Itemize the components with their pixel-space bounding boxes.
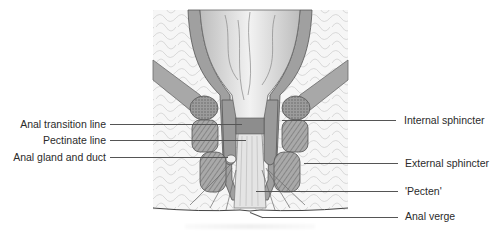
label-anal-gland-and-duct: Anal gland and duct xyxy=(13,151,106,163)
external-sphincter-superficial-right xyxy=(282,120,308,152)
leader-external-sphincter xyxy=(304,163,398,164)
leader-anal-verge xyxy=(262,217,398,218)
leader-anal-transition-line xyxy=(110,124,242,125)
leader-internal-sphincter xyxy=(282,120,396,121)
leader-pectinate-line xyxy=(110,140,246,141)
external-sphincter-deep-right xyxy=(282,96,310,120)
anatomy-figure: Anal transition line Pectinate line Anal… xyxy=(0,0,497,232)
label-pectinate-line: Pectinate line xyxy=(43,134,106,146)
label-anal-transition-line: Anal transition line xyxy=(20,118,106,130)
external-sphincter-deep-left xyxy=(190,96,218,120)
figure-caption-faint xyxy=(185,224,315,229)
leader-anal-gland-and-duct xyxy=(110,157,228,158)
anal-canal-pecten xyxy=(234,134,266,208)
label-external-sphincter: External sphincter xyxy=(405,157,489,169)
external-sphincter-subcutaneous-right xyxy=(274,152,300,192)
label-pecten: 'Pecten' xyxy=(405,185,442,197)
internal-sphincter-right xyxy=(264,100,278,165)
anal-columns xyxy=(236,118,264,134)
leader-pecten xyxy=(256,191,398,192)
label-anal-verge: Anal verge xyxy=(405,210,455,222)
label-internal-sphincter: Internal sphincter xyxy=(404,114,485,126)
